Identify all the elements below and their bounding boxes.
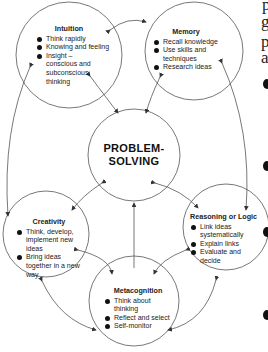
creativity-item: Think, develop, implement new ideas — [16, 228, 78, 254]
creativity-item: Bring ideas together in a new way — [16, 253, 86, 279]
problem-solving-label: PROBLEM- SOLVING — [96, 142, 172, 168]
reasoning-node: Reasoning or Logic Link ideas systematic… — [190, 213, 262, 266]
side-letter: g — [261, 13, 268, 30]
reasoning-title: Reasoning or Logic — [190, 213, 262, 222]
intuition-list: Think rapidly Knowing and feeling Insigh… — [36, 35, 116, 87]
memory-title: Memory — [153, 28, 225, 37]
metacognition-title: Metacognition — [104, 287, 176, 296]
creativity-node: Creativity Think, develop, implement new… — [16, 218, 86, 279]
side-letter: a — [261, 49, 268, 66]
creativity-title: Creativity — [16, 218, 86, 227]
memory-list: Recall knowledge Use skills and techniqu… — [153, 38, 225, 72]
metacognition-item: Think about thinking — [104, 297, 158, 314]
side-bullet — [263, 227, 268, 237]
center-line-2: SOLVING — [96, 155, 172, 168]
reasoning-item: Evaluate and decide — [190, 248, 244, 265]
center-line-1: PROBLEM- — [96, 142, 172, 155]
intuition-node: Intuition Think rapidly Knowing and feel… — [36, 25, 116, 86]
memory-item: Recall knowledge — [153, 38, 225, 47]
intuition-item: Insight – conscious and subconscious thi… — [36, 52, 102, 86]
side-bullet — [263, 161, 268, 171]
reasoning-item: Link ideas systematically — [190, 223, 244, 240]
intuition-title: Intuition — [36, 25, 116, 34]
metacognition-item: Self-monitor — [104, 322, 176, 331]
metacognition-node: Metacognition Think about thinking Refle… — [104, 287, 176, 331]
side-bullet — [263, 310, 268, 320]
reasoning-item: Explain links — [190, 240, 262, 249]
memory-item: Research ideas — [153, 63, 225, 72]
intuition-item: Knowing and feeling — [36, 43, 116, 52]
memory-node: Memory Recall knowledge Use skills and t… — [153, 28, 225, 72]
memory-item: Use skills and techniques — [153, 46, 209, 63]
metacognition-item: Reflect and select — [104, 314, 176, 323]
creativity-list: Think, develop, implement new ideas Brin… — [16, 228, 86, 280]
side-bullet — [263, 79, 268, 89]
metacognition-list: Think about thinking Reflect and select … — [104, 297, 176, 331]
reasoning-list: Link ideas systematically Explain links … — [190, 223, 262, 266]
intuition-item: Think rapidly — [36, 35, 116, 44]
